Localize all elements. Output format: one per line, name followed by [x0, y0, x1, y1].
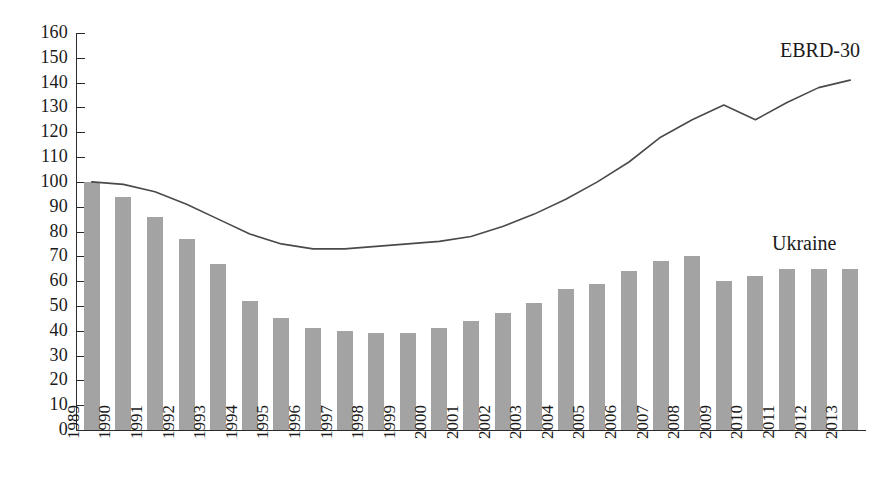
x-tick-label-text: 1996: [282, 405, 308, 467]
line-series-ebrd-30: [76, 33, 866, 430]
x-tick-label-text: 1993: [187, 405, 213, 467]
x-tick-label-text: 2010: [724, 405, 750, 467]
y-tick-label: 130: [22, 97, 68, 115]
x-tick-label-text: 1990: [92, 405, 118, 467]
x-tick-label-text: 1999: [377, 405, 403, 467]
x-tick-label-text: 1991: [124, 405, 150, 467]
x-tick-label-text: 1998: [345, 405, 371, 467]
y-tick-label: 100: [22, 172, 68, 190]
x-axis-labels: 1989199019911992199319941995199619971998…: [76, 434, 866, 498]
x-tick-label-text: 2004: [535, 405, 561, 467]
x-tick-label-text: 2011: [756, 405, 782, 467]
y-tick-label: 120: [22, 122, 68, 140]
x-tick-label-text: 2008: [661, 405, 687, 467]
x-tick-label-text: 2007: [630, 405, 656, 467]
y-tick-label: 30: [22, 346, 68, 364]
x-tick-label-text: 1995: [250, 405, 276, 467]
x-tick-label-text: 2005: [566, 405, 592, 467]
x-tick-label-text: 1992: [156, 405, 182, 467]
y-tick-label: 140: [22, 73, 68, 91]
x-tick-label-text: 1997: [314, 405, 340, 467]
y-tick-label: 150: [22, 48, 68, 66]
x-tick-label: 2013: [837, 434, 863, 496]
y-tick-label: 40: [22, 321, 68, 339]
x-tick-label-text: 1994: [219, 405, 245, 467]
y-tick-label: 160: [22, 23, 68, 41]
y-tick-label: 60: [22, 271, 68, 289]
x-tick-label-text: 2006: [598, 405, 624, 467]
x-tick-label-text: 2012: [788, 405, 814, 467]
series-label-ebrd-30: EBRD-30: [780, 40, 860, 60]
plot-area: [76, 33, 866, 430]
series-label-ukraine: Ukraine: [772, 233, 836, 253]
y-tick-label: 20: [22, 370, 68, 388]
x-tick-label-text: 1989: [61, 405, 87, 467]
y-tick-label: 80: [22, 222, 68, 240]
x-tick-label-text: 2000: [408, 405, 434, 467]
y-tick-label: 50: [22, 296, 68, 314]
x-tick-label-text: 2001: [440, 405, 466, 467]
x-tick-label-text: 2003: [503, 405, 529, 467]
chart-figure: 0102030405060708090100110120130140150160…: [0, 0, 881, 501]
x-tick-label-text: 2009: [693, 405, 719, 467]
x-tick-label-text: 2002: [472, 405, 498, 467]
y-tick-label: 90: [22, 197, 68, 215]
x-tick-label-text: 2013: [819, 405, 845, 467]
y-tick-label: 110: [22, 147, 68, 165]
y-tick-label: 70: [22, 246, 68, 264]
